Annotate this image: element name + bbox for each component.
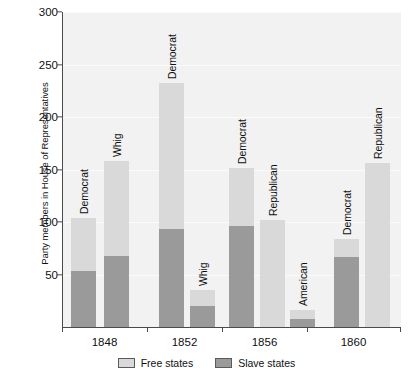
bar-segment-slave-states — [159, 229, 184, 327]
bar-1852-whig: Whig — [190, 290, 215, 327]
bar-segment-free-states — [334, 239, 359, 257]
x-axis-group-label-1852: 1852 — [145, 336, 225, 348]
bar-segment-free-states — [190, 290, 215, 306]
x-axis-tick-mark — [62, 327, 63, 332]
bar-segment-slave-states — [334, 257, 359, 327]
y-axis-tick-label: 200 — [8, 111, 58, 123]
legend-item: Free states — [118, 357, 194, 369]
bar-1860-democrat: Democrat — [334, 239, 359, 327]
legend-swatch — [215, 358, 232, 368]
bar-label-whig: Whig — [111, 134, 123, 158]
x-axis-group-label-1856: 1856 — [225, 336, 305, 348]
plot-area: DemocratWhigDemocratWhigDemocratRepublic… — [62, 12, 401, 328]
legend-label: Slave states — [238, 357, 295, 369]
bar-label-democrat: Democrat — [78, 169, 90, 214]
bar-segment-free-states — [229, 168, 254, 226]
gridline — [63, 117, 401, 118]
x-axis-tick-mark — [222, 327, 223, 332]
legend-label: Free states — [141, 357, 194, 369]
y-axis-tick-label: 300 — [8, 6, 58, 18]
legend-item: Slave states — [215, 357, 295, 369]
bar-label-democrat: Democrat — [236, 120, 248, 165]
x-axis-group-label-1848: 1848 — [65, 336, 145, 348]
bar-1848-whig: Whig — [104, 161, 129, 327]
bar-label-republican: Republican — [372, 108, 384, 160]
y-axis-tick-mark — [57, 11, 62, 12]
bar-segment-slave-states — [104, 256, 129, 327]
y-axis-tick-mark — [57, 221, 62, 222]
x-axis-group-label-1860: 1860 — [314, 336, 394, 348]
bar-label-democrat: Democrat — [341, 190, 353, 235]
bar-segment-free-states — [71, 218, 96, 272]
bar-label-republican: Republican — [267, 164, 279, 216]
bar-1856-republican: Republican — [260, 220, 285, 327]
bar-segment-slave-states — [229, 226, 254, 327]
y-axis-tick-mark — [57, 64, 62, 65]
y-axis-tick-label: 250 — [8, 59, 58, 71]
bar-segment-free-states — [104, 161, 129, 256]
bar-1848-democrat: Democrat — [71, 218, 96, 327]
bar-1856-american: American — [290, 310, 315, 327]
bar-segment-free-states — [290, 310, 315, 318]
y-axis-tick-mark — [57, 274, 62, 275]
y-axis-tick-label: 50 — [8, 269, 58, 281]
x-axis-tick-mark — [400, 327, 401, 332]
y-axis-tick-label: 100 — [8, 216, 58, 228]
bar-label-whig: Whig — [197, 263, 209, 287]
bar-1860-republican: Republican — [365, 163, 390, 327]
x-axis-tick-mark — [147, 327, 148, 332]
y-axis-tick-mark — [57, 169, 62, 170]
bar-label-american: American — [297, 263, 309, 307]
y-axis-tick-mark — [57, 116, 62, 117]
bar-1852-democrat: Democrat — [159, 83, 184, 327]
y-axis-tick-label: 150 — [8, 164, 58, 176]
bar-segment-free-states — [365, 163, 390, 327]
gridline — [63, 12, 401, 13]
chart-legend: Free statesSlave states — [0, 357, 413, 369]
bar-1856-democrat: Democrat — [229, 168, 254, 327]
bar-segment-slave-states — [71, 271, 96, 327]
bar-segment-slave-states — [190, 306, 215, 327]
bar-segment-slave-states — [290, 319, 315, 327]
gridline — [63, 65, 401, 66]
legend-swatch — [118, 358, 135, 368]
x-axis-tick-mark — [307, 327, 308, 332]
bar-segment-free-states — [260, 220, 285, 327]
bar-segment-free-states — [159, 83, 184, 229]
bar-label-democrat: Democrat — [166, 35, 178, 80]
bar-chart: Party members in House of Representative… — [0, 0, 413, 380]
